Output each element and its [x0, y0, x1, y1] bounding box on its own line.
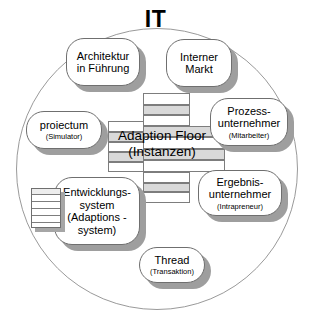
node-subtitle: (Mitarbeiter) [229, 131, 269, 140]
diagram-canvas: IT Adaption Floor (Instanzen) Architektu… [0, 0, 311, 323]
floor-band [143, 115, 190, 126]
floor-band-left [108, 162, 144, 172]
adaption-floor-label: Adaption Floor (Instanzen) [96, 128, 228, 159]
node-proiectum[interactable]: proiectum (Simulator) [26, 111, 102, 149]
sheets-line [32, 215, 60, 216]
node-title: Prozess- [227, 105, 270, 118]
node-ergebnisunternehmer[interactable]: Ergebnis- unternehmer (Intrapreneur) [198, 170, 282, 216]
node-title: proiectum [40, 119, 88, 132]
floor-label-line1: Adaption Floor [118, 128, 206, 143]
sheets-page [31, 188, 61, 228]
node-title-2: unternehmer [209, 188, 271, 201]
node-title-2: in Führung [77, 62, 130, 75]
diagram-title: IT [0, 8, 311, 31]
floor-band [143, 93, 190, 105]
node-title: Entwicklungs- [63, 186, 131, 199]
floor-band-lower [143, 183, 190, 192]
node-subtitle: (Simulator) [46, 132, 83, 141]
node-subtitle: (Intrapreneur) [217, 202, 263, 211]
floor-label-line2: (Instanzen) [96, 144, 228, 160]
node-architektur[interactable]: Architektur in Führung [66, 38, 140, 86]
node-title-2: system [80, 199, 115, 212]
node-title: Thread [155, 254, 190, 267]
floor-band [143, 105, 190, 115]
sheets-line [32, 208, 60, 209]
node-interner-markt[interactable]: Interner Markt [166, 39, 232, 87]
node-title: Architektur [77, 50, 130, 63]
sheets-line [32, 222, 60, 223]
sheets-line [32, 201, 60, 202]
floor-band-lower [143, 192, 190, 203]
node-title: Interner [180, 51, 218, 64]
stacked-sheets-icon [31, 188, 69, 236]
sheets-header [32, 189, 60, 195]
node-title-2: Markt [185, 63, 213, 76]
floor-band-lower [143, 172, 190, 183]
node-subtitle: (Transaktion) [150, 267, 194, 276]
node-title: Ergebnis- [216, 176, 263, 189]
node-thread[interactable]: Thread (Transaktion) [139, 247, 205, 283]
